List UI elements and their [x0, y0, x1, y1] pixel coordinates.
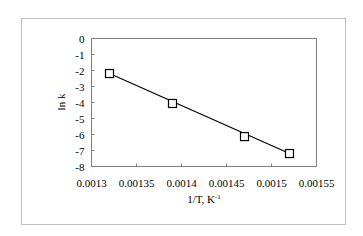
y-tick-label: -2 [75, 65, 84, 77]
data-point-marker [241, 133, 249, 141]
x-tick-label: 0.00135 [119, 177, 155, 189]
y-tick-label: -8 [75, 161, 85, 173]
data-point-marker [286, 150, 294, 158]
y-axis-label: ln k [55, 93, 67, 110]
x-tick-label: 0.0014 [166, 177, 197, 189]
y-tick-label: -6 [75, 129, 85, 141]
x-tick-label: 0.00145 [209, 177, 245, 189]
x-tick-label: 0.00155 [299, 177, 335, 189]
y-tick-label: -1 [75, 49, 84, 61]
chart: 0.00130.001350.00140.001450.00150.00155 … [0, 0, 363, 236]
x-tick-label: 0.0013 [76, 177, 107, 189]
data-point-marker [106, 70, 114, 78]
y-tick-label: 0 [79, 33, 85, 45]
y-tick-label: -3 [75, 81, 85, 93]
plot-area [92, 39, 317, 167]
y-tick-label: -4 [75, 97, 85, 109]
y-tick-label: -7 [75, 145, 85, 157]
x-tick-label: 0.0015 [256, 177, 287, 189]
data-point-marker [169, 99, 177, 107]
y-tick-label: -5 [75, 113, 85, 125]
